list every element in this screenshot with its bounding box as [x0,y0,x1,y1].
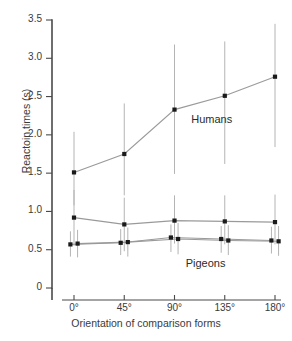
x-tick-label: 135° [200,302,250,313]
y-tick-label: 2.0 [0,128,42,139]
data-point-marker [226,238,230,242]
data-point-marker [223,219,227,223]
x-tick-label: 90° [150,302,200,313]
data-point-marker [273,75,277,79]
data-point-marker [223,94,227,98]
x-tick-label: 45° [99,302,149,313]
axis-layer [46,20,281,300]
data-point-marker [219,237,223,241]
y-tick-label: 3.0 [0,51,42,62]
y-tick-label: 0 [0,281,42,292]
y-tick-label: 0.5 [0,243,42,254]
x-tick-label: 180° [250,302,292,313]
reaction-time-chart: Reactoin times (s) Orientation of compar… [0,0,292,341]
data-point-marker [122,152,126,156]
data-point-marker [277,239,281,243]
data-point-marker [269,238,273,242]
data-point-marker [72,170,76,174]
data-point-marker [273,220,277,224]
data-point-marker [122,222,126,226]
data-point-marker [68,242,72,246]
data-point-marker [119,241,123,245]
data-point-marker [76,242,80,246]
y-tick-label: 2.5 [0,90,42,101]
data-point-marker [172,108,176,112]
y-tick-label: 1.5 [0,166,42,177]
x-tick-label: 0° [49,302,99,313]
data-point-marker [72,216,76,220]
data-point-marker [172,219,176,223]
data-point-marker [126,240,130,244]
y-tick-label: 1.0 [0,204,42,215]
series-annotation: Pigeons [186,257,226,269]
series-annotation: Humans [191,113,232,125]
data-point-marker [169,235,173,239]
x-axis-title: Orientation of comparison forms [0,317,292,329]
plot-area [0,0,292,341]
y-tick-label: 3.5 [0,13,42,24]
data-point-marker [176,237,180,241]
